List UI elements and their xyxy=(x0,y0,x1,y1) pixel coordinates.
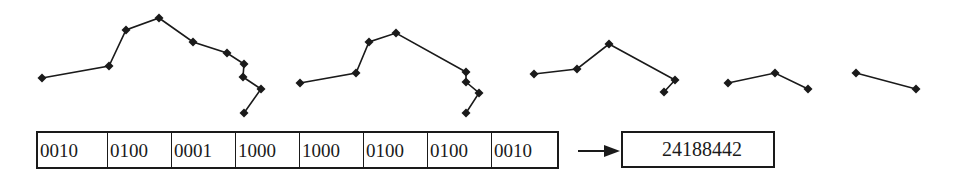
curve-stage-5 xyxy=(851,68,920,93)
curve-stage-1 xyxy=(37,13,265,117)
vertex-marker xyxy=(391,28,400,37)
vertex-marker xyxy=(104,61,113,70)
encoded-result: 24188442 xyxy=(621,131,775,168)
vertex-marker xyxy=(222,48,231,57)
vertex-marker xyxy=(529,69,538,78)
curve-stages xyxy=(0,0,955,125)
vertex-marker xyxy=(37,73,46,82)
curve-stage-2 xyxy=(295,28,483,117)
vertex-marker xyxy=(364,37,373,46)
vertex-marker xyxy=(911,84,920,93)
vertex-marker xyxy=(803,84,812,93)
code-cell: 1000 xyxy=(236,133,300,167)
code-cell: 0100 xyxy=(364,133,428,167)
code-cell: 0100 xyxy=(108,133,172,167)
code-cell: 1000 xyxy=(300,133,364,167)
vertex-marker xyxy=(295,78,304,87)
code-cell: 0001 xyxy=(172,133,236,167)
vertex-marker xyxy=(461,108,470,117)
code-cell: 0100 xyxy=(428,133,492,167)
vertex-marker xyxy=(723,78,732,87)
vertex-marker xyxy=(351,68,360,77)
right-arrow-icon xyxy=(576,142,622,160)
code-cell: 0010 xyxy=(492,133,557,167)
code-sequence: 0010 0100 0001 1000 1000 0100 0100 0010 xyxy=(36,131,559,169)
vertex-marker xyxy=(851,68,860,77)
curve-stage-4 xyxy=(723,68,812,93)
vertex-marker xyxy=(770,68,779,77)
curve-stage-3 xyxy=(529,39,679,96)
vertex-marker xyxy=(238,72,247,81)
vertex-marker xyxy=(121,25,130,34)
code-cell: 0010 xyxy=(38,133,108,167)
vertex-marker xyxy=(461,67,470,76)
vertex-marker xyxy=(239,59,248,68)
